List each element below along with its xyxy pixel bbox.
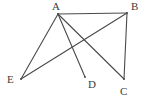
vertex-point-d xyxy=(84,76,86,78)
edge-bc xyxy=(124,13,127,79)
vertex-label-a: A xyxy=(52,1,60,12)
edge-ae xyxy=(21,14,58,79)
edge-group xyxy=(21,13,127,79)
vertex-point-b xyxy=(126,12,128,14)
vertex-label-e: E xyxy=(7,74,14,85)
vertex-label-d: D xyxy=(88,79,96,90)
vertex-point-a xyxy=(57,13,59,15)
edge-be xyxy=(21,13,127,79)
edge-ab xyxy=(58,13,127,14)
vertex-point-e xyxy=(20,78,22,80)
vertex-point-c xyxy=(123,78,125,80)
vertex-label-b: B xyxy=(131,1,138,12)
edge-ad xyxy=(58,14,85,77)
geometry-figure: ABCDE xyxy=(0,0,148,101)
vertex-label-c: C xyxy=(120,86,127,97)
edge-ac xyxy=(58,14,124,79)
